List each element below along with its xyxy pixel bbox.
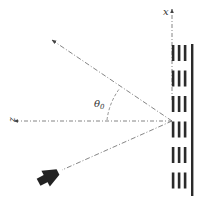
array-element [178, 71, 181, 87]
horn-antenna-icon [34, 164, 62, 190]
array-element [172, 45, 175, 61]
array-element [178, 45, 181, 61]
array-element [172, 173, 175, 189]
array-element [184, 96, 187, 112]
z-axis-label: z [7, 117, 17, 123]
array-element [172, 147, 175, 163]
array-element [172, 122, 175, 138]
reflected-ray [52, 40, 172, 121]
array-element [178, 173, 181, 189]
array-element [184, 147, 187, 163]
ground-plane [191, 44, 193, 196]
array-element [184, 122, 187, 138]
array-element [178, 96, 181, 112]
x-axis-label: x [163, 6, 169, 17]
array-element [172, 71, 175, 87]
array-element [184, 173, 187, 189]
array-element [184, 71, 187, 87]
angle-label: θ0 [94, 98, 105, 111]
metasurface-reflection-diagram: x z θ0 [0, 0, 208, 210]
array-element [184, 45, 187, 61]
metasurface-array [172, 44, 194, 196]
array-element [178, 122, 181, 138]
array-element [172, 96, 175, 112]
angle-arc [107, 88, 120, 120]
array-element [178, 147, 181, 163]
incident-ray [62, 121, 172, 170]
